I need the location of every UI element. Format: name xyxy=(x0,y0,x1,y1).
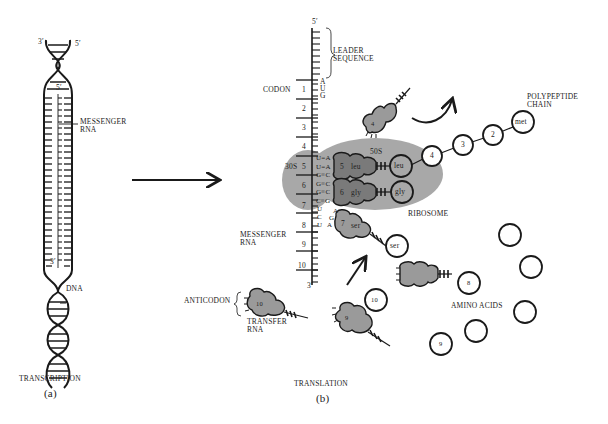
codon-number: 2 xyxy=(302,105,306,113)
codon-label: CODON xyxy=(263,86,291,94)
mrna-3prime-label: 3′ xyxy=(50,258,56,266)
aa-label: ser xyxy=(390,242,399,250)
messenger-rna-label-a-2: RNA xyxy=(80,126,96,134)
base-pair: G≡C xyxy=(316,188,330,196)
codon-number: 3 xyxy=(302,124,306,132)
mrna-3prime-label-b: 3′ xyxy=(307,282,313,290)
protein-synthesis-diagram xyxy=(0,0,608,424)
dna-3prime-label: 3′ xyxy=(38,38,44,46)
aa-label: 8 xyxy=(467,279,470,287)
codon-number: 8 xyxy=(302,222,306,230)
trna-number: 9 xyxy=(345,314,348,322)
aa-free-1 xyxy=(465,320,487,342)
subunit-30s-label: 30S xyxy=(285,163,297,171)
trna-free-unlabeled xyxy=(396,262,452,286)
anticodon-bracket xyxy=(234,292,241,316)
aa-label: leu xyxy=(394,162,404,170)
base-pair: U=A xyxy=(316,154,331,162)
codon-number: 7 xyxy=(302,202,306,210)
aa-label: 10 xyxy=(371,296,378,304)
dna-label: DNA xyxy=(66,285,83,293)
mrna-5prime-label: 5′ xyxy=(56,84,62,92)
codon-number: 9 xyxy=(302,241,306,249)
trna-number: 10 xyxy=(256,300,263,308)
mrna-5prime-label-b: 5′ xyxy=(312,18,318,26)
aa-label: gly xyxy=(395,188,405,196)
aa-free-4 xyxy=(514,301,536,323)
base-pair: G≡C xyxy=(316,180,330,188)
aa-label: 4 xyxy=(430,152,434,160)
mrna-free-base: C xyxy=(317,213,322,221)
aa-label: met xyxy=(515,118,527,126)
panel-a-label: (a) xyxy=(44,389,57,397)
codon-number: 4 xyxy=(302,143,306,151)
transcription-caption: TRANSCRIPTION xyxy=(19,375,81,383)
aa-label: 9 xyxy=(439,340,442,348)
trna-number: 5 xyxy=(340,163,344,171)
aa-free-2 xyxy=(499,224,521,246)
dna-5prime-label: 5′ xyxy=(75,40,81,48)
leader-sequence-label-2: SEQUENCE xyxy=(333,55,374,63)
trna-number: 4 xyxy=(371,120,374,128)
trna-number: 6 xyxy=(340,189,344,197)
codon-number: 10 xyxy=(298,262,306,270)
trna-aa-name: leu xyxy=(351,163,361,171)
trna-number: 7 xyxy=(341,220,345,228)
codon-number: 6 xyxy=(302,182,306,190)
incoming-arrow xyxy=(347,258,365,285)
trna-aa-name: gly xyxy=(351,189,361,197)
subunit-50s-label: 50S xyxy=(370,148,382,156)
anticodon-label: ANTICODON xyxy=(184,297,230,305)
translation-caption: TRANSLATION xyxy=(294,380,348,388)
dna-lower-rungs xyxy=(47,302,69,378)
panel-b-label: (b) xyxy=(316,394,329,402)
mrna-free-base: U xyxy=(317,221,322,229)
base-pair: U=A xyxy=(316,163,331,171)
aa-label: 3 xyxy=(461,141,465,149)
aa-free-3 xyxy=(520,256,542,278)
start-codon-g: G xyxy=(320,92,326,100)
base-pair: C≡G xyxy=(316,197,330,205)
trna-4-leaving xyxy=(363,88,410,138)
polypeptide-chain-label-2: CHAIN xyxy=(527,101,552,109)
trna-aa-name: ser xyxy=(351,222,360,230)
release-arrow xyxy=(412,100,452,122)
trna-10-anticodon-example xyxy=(244,289,308,318)
ribosome-label: RIBOSOME xyxy=(408,210,448,218)
base-pair: G≡C xyxy=(316,171,330,179)
mrna-free-base: U xyxy=(317,205,322,213)
trna-free-base: A xyxy=(327,221,332,229)
codon-number: 5 xyxy=(302,163,306,171)
messenger-rna-label-b-2: RNA xyxy=(240,239,256,247)
amino-acids-label: AMINO ACIDS xyxy=(451,302,503,310)
aa-label: 2 xyxy=(491,131,495,139)
transfer-rna-label-2: RNA xyxy=(247,326,263,334)
codon-number: 1 xyxy=(302,86,306,94)
